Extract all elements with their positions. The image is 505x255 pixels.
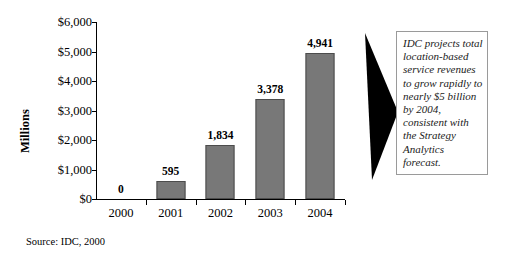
y-axis-tick-label: $6,000 [34,16,92,28]
bar-value-label: 0 [118,183,124,195]
y-axis-tick-labels: $6,000$5,000$4,000$3,000$2,000$1,000$0 [32,0,92,255]
x-axis-tick-mark [196,200,197,205]
source-note: Source: IDC, 2000 [26,236,105,248]
bar-group: 1,834 [196,22,246,199]
y-axis-tick-label: $0 [34,193,92,205]
chart-figure: Millions $6,000$5,000$4,000$3,000$2,000$… [0,0,505,255]
x-axis-tick-mark [345,200,346,205]
x-axis-category-label: 2000 [96,206,146,220]
bar [156,181,185,199]
y-axis-tick-label: $2,000 [34,134,92,146]
bar-group: 595 [146,22,196,199]
callout-text: IDC projects total location-based servic… [403,37,483,169]
y-axis-tick-label: $5,000 [34,46,92,58]
bar [206,145,235,199]
x-axis-category-label: 2002 [196,206,246,220]
x-axis-category-label: 2003 [245,206,295,220]
x-axis-tick-mark [295,200,296,205]
y-axis-tick-label: $3,000 [34,105,92,117]
arrow-icon [358,28,398,186]
bar-group: 3,378 [245,22,295,199]
y-axis-tick-label: $4,000 [34,75,92,87]
y-axis-title: Millions [18,86,32,176]
bar [256,99,285,199]
x-axis-line [96,199,345,200]
bar-value-label: 595 [162,165,179,177]
x-axis-category-label: 2004 [295,206,345,220]
bar-group: 0 [96,22,146,199]
bar [306,53,335,199]
x-axis-category-label: 2001 [146,206,196,220]
bar-value-label: 3,378 [257,83,283,95]
plot-area: 05951,8343,3784,941 [96,22,345,200]
x-axis-tick-mark [245,200,246,205]
bar-group: 4,941 [295,22,345,199]
callout-box: IDC projects total location-based servic… [396,31,488,175]
bar-value-label: 1,834 [208,129,234,141]
y-axis-tick-label: $1,000 [34,164,92,176]
x-axis-tick-mark [146,200,147,205]
y-axis-tick-mark [92,199,96,200]
bar-value-label: 4,941 [307,37,333,49]
